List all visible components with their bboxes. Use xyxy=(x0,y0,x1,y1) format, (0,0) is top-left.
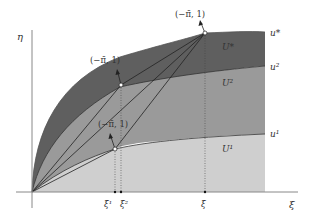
normal-label-mid: (−π̄, 1) xyxy=(90,55,120,65)
normal-label-top: (−π̄, 1) xyxy=(175,9,205,19)
region-label-u-star: U* xyxy=(222,42,235,52)
curve-label-u2: u² xyxy=(270,62,280,72)
tick-label-xi2: ξ̄² xyxy=(120,199,129,209)
tick-xi1 xyxy=(114,191,116,193)
point-low xyxy=(113,147,117,151)
y-axis-label: η xyxy=(17,31,23,42)
tick-xibar xyxy=(204,191,206,193)
point-mid xyxy=(119,83,123,87)
tick-label-xi1: ξ̄¹ xyxy=(104,199,112,209)
x-axis-label: ξ xyxy=(289,199,295,210)
curve-label-u1: u¹ xyxy=(270,129,279,139)
normal-label-low: (−π̄, 1) xyxy=(98,119,128,129)
tick-label-xibar: ξ̄ xyxy=(201,199,207,209)
diagram-canvas: η ξ u* u² u¹ U* U² U¹ (−π̄, 1) (−π̄, 1) … xyxy=(0,0,313,217)
curve-label-u-star: u* xyxy=(270,28,281,38)
region-label-u1: U¹ xyxy=(222,144,233,154)
point-top xyxy=(203,31,207,35)
region-label-u2: U² xyxy=(222,78,234,88)
arrowhead-top-icon xyxy=(199,20,204,26)
tick-xi2 xyxy=(120,191,122,193)
